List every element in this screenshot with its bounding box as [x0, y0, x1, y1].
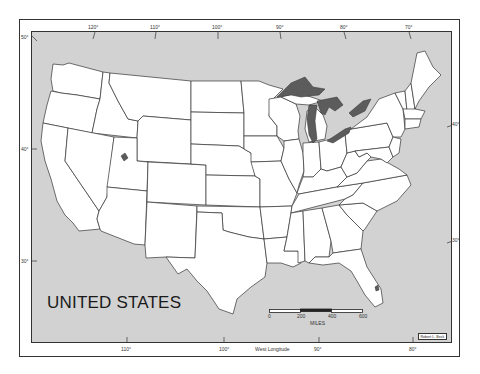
lake-ontario — [349, 99, 371, 117]
state-kansas — [206, 175, 260, 207]
west-longitude-label: West Longitude — [255, 346, 290, 352]
longitude-label-120: 120° — [88, 24, 98, 30]
bottom-longitude-label-110: 110° — [121, 346, 131, 352]
state-new-mexico — [145, 202, 197, 258]
scale-tick-200: 200 — [297, 313, 305, 319]
state-florida — [309, 249, 383, 307]
longitude-label-110: 110° — [150, 24, 160, 30]
latitude-label-30-left: 30° — [21, 258, 29, 264]
credit-box: Robert L. Beck — [418, 333, 447, 340]
state-maine — [411, 51, 441, 109]
scale-tick-0: 0 — [268, 313, 271, 319]
state-colorado — [147, 162, 206, 205]
scale-tick-400: 400 — [328, 313, 336, 319]
latitude-label-30-right: 30° — [452, 237, 460, 243]
longitude-label-80: 80° — [340, 24, 348, 30]
longitude-label-90: 90° — [276, 24, 284, 30]
state-wyoming — [137, 116, 191, 164]
scale-bar — [269, 308, 365, 314]
scale-unit: MILES — [310, 320, 325, 326]
bottom-longitude-label-100: 100° — [219, 346, 229, 352]
latitude-label-40-right: 40° — [452, 121, 460, 127]
scale-tick-600: 600 — [359, 313, 367, 319]
state-massachusetts — [403, 109, 425, 119]
latitude-label-40-left: 40° — [21, 146, 29, 152]
latitude-label-50: 50° — [21, 34, 29, 40]
state-south-dakota — [191, 112, 244, 149]
lake-huron — [317, 97, 343, 115]
state-north-dakota — [191, 81, 244, 113]
map-title: UNITED STATES — [47, 293, 181, 313]
bottom-longitude-label-80: 80° — [409, 346, 417, 352]
state-connecticut — [405, 119, 421, 129]
longitude-label-70: 70° — [405, 24, 413, 30]
bottom-longitude-label-90: 90° — [314, 346, 322, 352]
lake-superior — [277, 77, 325, 97]
longitude-label-100: 100° — [212, 24, 222, 30]
